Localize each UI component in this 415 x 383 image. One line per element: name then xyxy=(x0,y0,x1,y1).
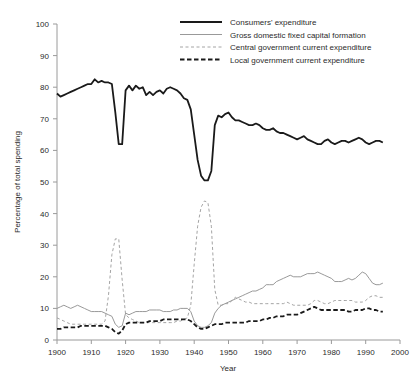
x-tick-label: 1900 xyxy=(48,348,66,357)
y-tick-label: 90 xyxy=(40,52,49,61)
x-axis-tick-group: 1900191019201930194019501960197019801990… xyxy=(48,340,409,357)
y-tick-label: 0 xyxy=(45,336,50,345)
x-tick-label: 1930 xyxy=(151,348,169,357)
y-tick-label: 70 xyxy=(40,115,49,124)
data-series-group xyxy=(57,79,383,333)
y-tick-label: 40 xyxy=(40,210,49,219)
x-tick-label: 1960 xyxy=(254,348,272,357)
legend-label-1: Gross domestic fixed capital formation xyxy=(230,31,366,40)
chart-figure: 0102030405060708090100 19001910192019301… xyxy=(0,0,415,383)
line-chart: 0102030405060708090100 19001910192019301… xyxy=(0,0,415,383)
x-tick-label: 1990 xyxy=(357,348,375,357)
y-axis-title: Percentage of total spending xyxy=(13,131,22,233)
x-tick-label: 1920 xyxy=(117,348,135,357)
legend-label-2: Central government current expenditure xyxy=(230,43,372,52)
legend-label-3: Local government current expenditure xyxy=(230,56,365,65)
chart-legend: Consumers' expenditureGross domestic fix… xyxy=(180,18,372,65)
y-tick-label: 60 xyxy=(40,146,49,155)
x-tick-label: 1970 xyxy=(288,348,306,357)
series-line-2 xyxy=(57,201,383,324)
y-tick-label: 50 xyxy=(40,178,49,187)
y-tick-label: 100 xyxy=(36,20,50,29)
series-line-1 xyxy=(57,272,383,327)
x-tick-label: 1940 xyxy=(185,348,203,357)
x-tick-label: 1910 xyxy=(82,348,100,357)
x-axis-title: Year xyxy=(220,364,237,373)
y-tick-label: 80 xyxy=(40,83,49,92)
series-line-0 xyxy=(57,79,383,180)
y-axis-tick-group: 0102030405060708090100 xyxy=(36,20,57,345)
x-tick-label: 2000 xyxy=(391,348,409,357)
legend-label-0: Consumers' expenditure xyxy=(230,18,317,27)
x-tick-label: 1980 xyxy=(323,348,341,357)
y-tick-label: 10 xyxy=(40,304,49,313)
x-tick-label: 1950 xyxy=(220,348,238,357)
y-tick-label: 30 xyxy=(40,241,49,250)
y-tick-label: 20 xyxy=(40,273,49,282)
series-line-3 xyxy=(57,307,383,334)
